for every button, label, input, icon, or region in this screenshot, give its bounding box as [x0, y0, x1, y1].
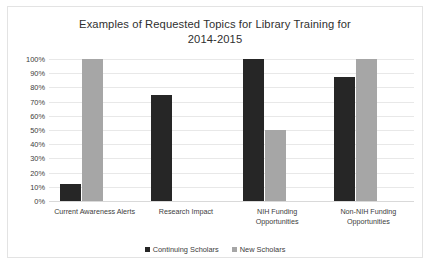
bar-continuing-scholars[interactable]	[60, 184, 81, 201]
legend-swatch-icon	[232, 247, 237, 252]
bar-new-scholars[interactable]	[82, 59, 103, 201]
bar-continuing-scholars[interactable]	[151, 95, 172, 202]
y-axis-tick-label: 100%	[26, 55, 45, 64]
y-axis-tick-label: 90%	[30, 69, 45, 78]
chart-title: Examples of Requested Topics for Library…	[8, 17, 422, 47]
y-axis-tick-label: 40%	[30, 140, 45, 149]
bar-group: Non-NIH FundingOpportunities	[323, 59, 414, 201]
x-axis-category-label-line: NIH Funding	[232, 207, 323, 217]
legend-swatch-icon	[145, 247, 150, 252]
y-axis-tick-label: 80%	[30, 83, 45, 92]
bar-new-scholars[interactable]	[356, 59, 377, 201]
plot-area: 100%90%80%70%60%50%40%30%20%10%0% Curren…	[49, 59, 414, 201]
legend-item-label: New Scholars	[240, 245, 286, 254]
y-axis-tick-label: 70%	[30, 97, 45, 106]
bars-layer: Current Awareness AlertsResearch ImpactN…	[49, 59, 414, 201]
legend-item[interactable]: New Scholars	[232, 245, 286, 254]
legend-item-label: Continuing Scholars	[153, 245, 219, 254]
bar-continuing-scholars[interactable]	[243, 59, 264, 201]
x-axis-category-label: NIH FundingOpportunities	[232, 207, 323, 226]
bar-group: Current Awareness Alerts	[49, 59, 140, 201]
y-axis-tick-label: 20%	[30, 168, 45, 177]
x-axis-category-label: Current Awareness Alerts	[49, 207, 140, 217]
y-axis-tick-label: 0%	[34, 197, 45, 206]
chart-legend: Continuing ScholarsNew Scholars	[8, 245, 422, 254]
bar-continuing-scholars[interactable]	[334, 77, 355, 201]
bar-group: NIH FundingOpportunities	[232, 59, 323, 201]
y-axis-tick-label: 30%	[30, 154, 45, 163]
chart-container: Examples of Requested Topics for Library…	[7, 6, 423, 258]
x-axis-category-label-line: Opportunities	[323, 217, 414, 227]
x-axis-category-label-line: Research Impact	[140, 207, 231, 217]
y-axis-tick-label: 10%	[30, 182, 45, 191]
x-axis-category-label: Research Impact	[140, 207, 231, 217]
chart-title-line-1: Examples of Requested Topics for Library…	[8, 17, 422, 32]
y-axis-tick-label: 60%	[30, 111, 45, 120]
y-axis-tick-label: 50%	[30, 126, 45, 135]
legend-item[interactable]: Continuing Scholars	[145, 245, 219, 254]
chart-title-line-2: 2014-2015	[8, 32, 422, 47]
x-axis-category-label: Non-NIH FundingOpportunities	[323, 207, 414, 226]
bar-group: Research Impact	[140, 59, 231, 201]
x-axis-category-label-line: Current Awareness Alerts	[49, 207, 140, 217]
x-axis-category-label-line: Opportunities	[232, 217, 323, 227]
bar-new-scholars[interactable]	[265, 130, 286, 201]
x-axis-category-label-line: Non-NIH Funding	[323, 207, 414, 217]
gridline	[49, 201, 414, 202]
